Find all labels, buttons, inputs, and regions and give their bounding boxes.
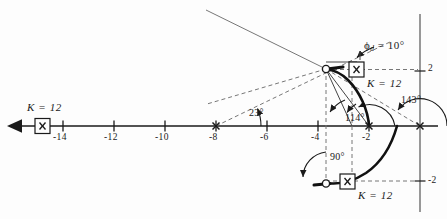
angle-label-143: 143° bbox=[401, 95, 421, 105]
departure-angle-label: ϕd = 10° bbox=[364, 40, 405, 52]
angle-label-90: 90° bbox=[330, 152, 345, 162]
gain-label-lower-text: K = 12 bbox=[358, 189, 393, 201]
tick-label-neg8: -8 bbox=[209, 133, 218, 143]
tick-label-neg10: -10 bbox=[155, 133, 169, 143]
tick-label-neg12: -12 bbox=[104, 133, 118, 143]
gain-label-left: K = 12 bbox=[27, 102, 62, 113]
tick-label-neg2-imag: -2 bbox=[428, 176, 437, 186]
gain-marker-lower bbox=[340, 174, 355, 189]
angle-label-114: 114° bbox=[345, 113, 365, 123]
gain-marker-upper bbox=[349, 62, 364, 77]
gain-label-left-text: K = 12 bbox=[27, 101, 62, 113]
gain-label-upper: K = 12 bbox=[367, 78, 402, 89]
imaginary-axis bbox=[415, 14, 426, 212]
gain-label-upper-text: K = 12 bbox=[367, 77, 402, 89]
root-locus-svg bbox=[0, 0, 447, 219]
tick-label-neg14: -14 bbox=[53, 133, 67, 143]
zero-lower bbox=[322, 180, 329, 187]
gain-label-lower: K = 12 bbox=[358, 190, 393, 201]
angle-label-23: 23° bbox=[249, 108, 264, 118]
zero-upper bbox=[322, 65, 329, 72]
root-locus-figure: -14 -12 -10 -8 -6 -4 -2 2 -2 K = 12 K = … bbox=[0, 0, 447, 219]
gain-marker-left bbox=[35, 119, 50, 134]
real-axis bbox=[22, 121, 438, 132]
tick-label-neg6: -6 bbox=[260, 133, 269, 143]
phi-value: = 10° bbox=[378, 39, 405, 51]
tick-label-pos2-imag: 2 bbox=[428, 64, 433, 74]
tick-label-neg2: -2 bbox=[362, 133, 371, 143]
phi-subscript: d bbox=[370, 44, 374, 53]
tick-label-neg4: -4 bbox=[311, 133, 320, 143]
